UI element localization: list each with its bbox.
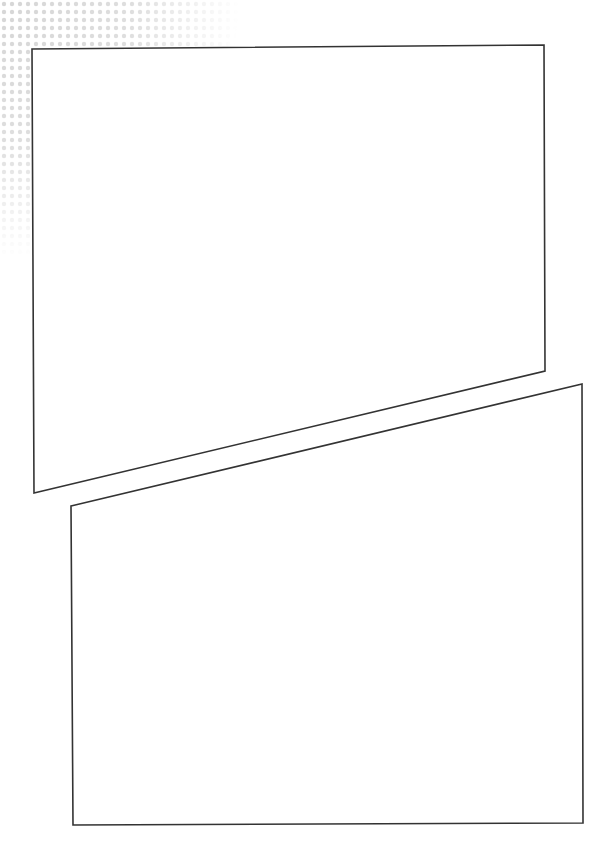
- page-canvas: [0, 0, 612, 845]
- comic-page: [0, 0, 612, 845]
